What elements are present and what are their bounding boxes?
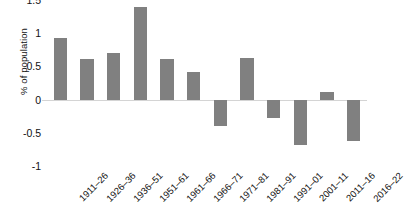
bar-slot xyxy=(294,0,307,166)
bar[interactable] xyxy=(320,92,333,100)
x-axis-tick-labels: 1911–261926–361936–511951–611961–661966–… xyxy=(47,166,367,224)
bar-slot xyxy=(160,0,173,166)
bar[interactable] xyxy=(214,100,227,127)
bar-slot xyxy=(267,0,280,166)
y-axis-tick-labels: 1.510.50-0.5-1 xyxy=(0,0,47,224)
bar-slot xyxy=(320,0,333,166)
bar[interactable] xyxy=(134,7,147,100)
bar-slot xyxy=(107,0,120,166)
y-axis-tick-label: -0.5 xyxy=(23,128,41,138)
bar[interactable] xyxy=(347,100,360,142)
y-axis-tick-label: 0.5 xyxy=(26,61,41,71)
bar[interactable] xyxy=(160,59,173,100)
bar-slot xyxy=(134,0,147,166)
bar[interactable] xyxy=(80,59,93,100)
x-axis-tick-label: 2016–22 xyxy=(370,170,404,204)
y-axis-tick-label: 0 xyxy=(35,95,41,105)
bar-slot xyxy=(240,0,253,166)
bar-slot xyxy=(214,0,227,166)
plot-area xyxy=(47,0,367,166)
bar[interactable] xyxy=(240,58,253,99)
bar-slot xyxy=(80,0,93,166)
y-axis-tick-label: -1 xyxy=(32,161,41,171)
bar[interactable] xyxy=(54,38,67,100)
bar[interactable] xyxy=(187,72,200,99)
y-axis-tick-label: 1.5 xyxy=(26,0,41,5)
bar[interactable] xyxy=(294,100,307,145)
bar-slot xyxy=(54,0,67,166)
bar-slot xyxy=(187,0,200,166)
bar[interactable] xyxy=(107,53,120,99)
y-axis-tick-label: 1 xyxy=(35,28,41,38)
bar[interactable] xyxy=(267,100,280,119)
x-axis-tick-label: 2011–16 xyxy=(344,170,377,203)
zero-axis-line xyxy=(47,100,367,101)
bar-slot xyxy=(347,0,360,166)
zero-axis-tick-mark xyxy=(42,100,47,101)
